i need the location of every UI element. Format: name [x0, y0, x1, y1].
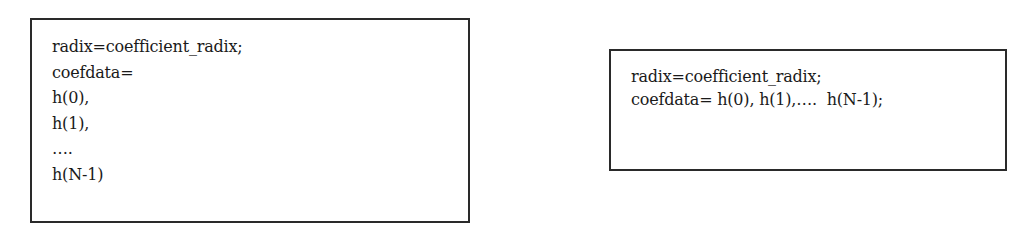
code-line-h0: h(0),	[52, 85, 468, 111]
code-line-h1: h(1),	[52, 111, 468, 137]
code-line-hN-1: h(N-1)	[52, 162, 468, 188]
code-line-radix: radix=coefficient_radix;	[52, 34, 468, 60]
coe-file-format-single-line: radix=coefficient_radix; coefdata= h(0),…	[609, 49, 1007, 171]
code-line-coefdata: coefdata= h(0), h(1),…. h(N-1);	[631, 88, 1005, 111]
code-line-radix: radix=coefficient_radix;	[631, 65, 1005, 88]
coe-file-format-multiline: radix=coefficient_radix; coefdata= h(0),…	[30, 18, 470, 223]
code-line-coefdata: coefdata=	[52, 60, 468, 86]
code-line-ellipsis: ….	[52, 136, 468, 162]
